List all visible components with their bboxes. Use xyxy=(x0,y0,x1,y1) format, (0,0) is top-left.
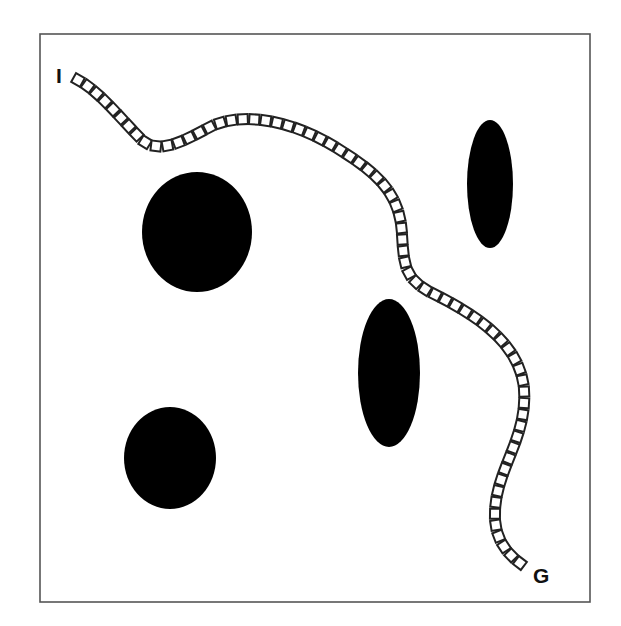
obstacle-round-lower-left xyxy=(124,407,216,509)
route-square xyxy=(490,497,501,508)
route-square xyxy=(390,199,403,212)
path-planning-diagram: I G xyxy=(0,0,621,626)
route-square xyxy=(394,211,406,223)
route-square xyxy=(490,509,500,519)
obstacles-group xyxy=(124,120,513,509)
start-label: I xyxy=(56,64,62,87)
route-square xyxy=(397,234,408,245)
route-square xyxy=(513,363,526,376)
route-square xyxy=(214,117,227,130)
route-square xyxy=(495,474,508,487)
route-square xyxy=(396,223,407,234)
route-square xyxy=(519,386,529,396)
route-square xyxy=(514,420,526,432)
route-square xyxy=(517,374,529,386)
route-square xyxy=(260,115,271,126)
route-square xyxy=(492,485,504,497)
goal-label: G xyxy=(533,564,549,587)
obstacle-round-upper-left xyxy=(142,172,252,292)
route-square xyxy=(150,140,161,151)
route-square xyxy=(162,140,174,152)
route-square xyxy=(226,115,237,126)
route-square xyxy=(517,409,528,420)
route-square xyxy=(398,245,409,256)
route-square xyxy=(271,117,283,129)
route-square xyxy=(490,519,501,530)
obstacle-ellipse-upper-right xyxy=(467,120,513,248)
route-square xyxy=(238,114,248,124)
route-square xyxy=(249,114,260,125)
obstacle-ellipse-center xyxy=(358,299,420,447)
route-square xyxy=(519,398,530,409)
